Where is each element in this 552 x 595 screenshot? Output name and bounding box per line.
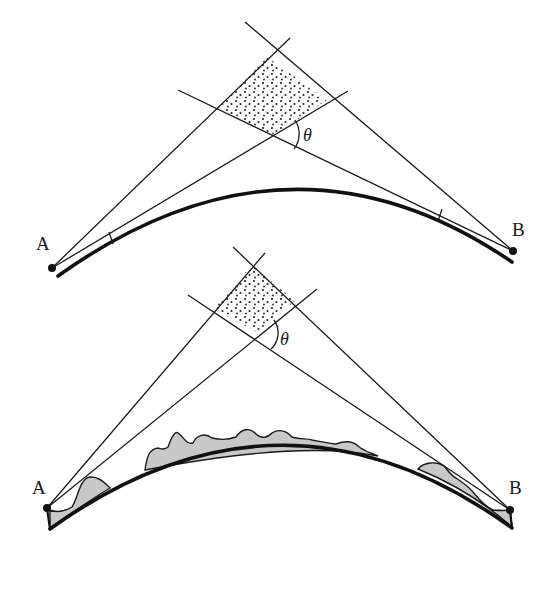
top-uncertainty-region bbox=[218, 57, 327, 135]
bottom-line-b-steep bbox=[233, 247, 510, 510]
top-line-a-steep bbox=[52, 38, 290, 268]
bottom-point-b bbox=[506, 506, 514, 514]
top-diagram: θ A B bbox=[36, 22, 525, 276]
bottom-label-b: B bbox=[509, 477, 522, 498]
top-point-b bbox=[509, 247, 517, 255]
top-point-a bbox=[48, 264, 56, 272]
bottom-label-a: A bbox=[32, 477, 46, 498]
bottom-line-a-shallow bbox=[47, 289, 317, 508]
top-baseline-arc bbox=[58, 189, 512, 276]
bottom-theta-arc bbox=[271, 320, 278, 349]
bottom-point-a bbox=[43, 504, 51, 512]
diagram-canvas: θ A B θ A B bbox=[0, 0, 552, 595]
bottom-baseline-arc bbox=[50, 445, 512, 529]
top-label-b: B bbox=[512, 219, 525, 240]
bottom-diagram: θ A B bbox=[32, 247, 522, 529]
bottom-line-b-shallow bbox=[188, 295, 510, 510]
top-theta-arc bbox=[294, 120, 299, 149]
bottom-terrain-left bbox=[50, 477, 110, 528]
top-label-a: A bbox=[36, 233, 50, 254]
top-theta-label: θ bbox=[303, 125, 312, 145]
bottom-theta-label: θ bbox=[280, 329, 289, 349]
top-line-a-shallow bbox=[52, 91, 348, 268]
top-line-b-shallow bbox=[178, 90, 513, 251]
top-line-b-steep bbox=[245, 22, 513, 251]
